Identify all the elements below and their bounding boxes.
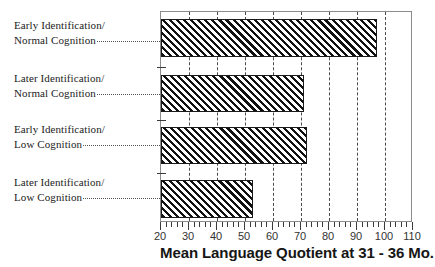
x-axis-tick-label: 100 <box>375 230 393 242</box>
x-axis-minor-tick <box>311 222 312 227</box>
category-label-line1: Later Identification/ <box>14 71 160 86</box>
x-axis-minor-tick <box>171 222 172 227</box>
dotted-leader <box>83 198 160 199</box>
bar <box>161 180 253 218</box>
x-axis-title: Mean Language Quotient at 31 - 36 Mo. <box>160 244 435 261</box>
dotted-leader <box>97 41 160 42</box>
x-axis-minor-tick <box>222 222 223 227</box>
category-label-line1: Later Identification/ <box>14 175 160 190</box>
x-axis-tick-label: 70 <box>294 230 306 242</box>
x-axis-minor-tick <box>406 222 407 227</box>
x-axis-tick-label: 80 <box>322 230 334 242</box>
category-label-line1: Early Identification/ <box>14 18 160 33</box>
x-axis-minor-tick <box>250 222 251 227</box>
x-axis-major-tick <box>272 222 273 230</box>
y-axis-tick <box>157 120 166 121</box>
x-axis-minor-tick <box>334 222 335 227</box>
x-axis-major-tick <box>300 222 301 230</box>
x-axis-tick-label: 60 <box>266 230 278 242</box>
x-axis-minor-tick <box>278 222 279 227</box>
x-axis-major-tick <box>244 222 245 230</box>
x-axis-minor-tick <box>401 222 402 227</box>
x-axis-tick-label: 110 <box>403 230 421 242</box>
x-axis-minor-tick <box>395 222 396 227</box>
x-axis-minor-tick <box>177 222 178 227</box>
y-axis-tick <box>157 67 166 68</box>
category-label-line2: Normal Cognition <box>14 33 160 48</box>
x-axis-minor-tick <box>362 222 363 227</box>
x-axis-minor-tick <box>350 222 351 227</box>
x-axis-minor-tick <box>283 222 284 227</box>
x-axis-minor-tick <box>210 222 211 227</box>
x-axis-minor-tick <box>166 222 167 227</box>
x-axis-major-tick <box>216 222 217 230</box>
x-axis-minor-tick <box>390 222 391 227</box>
category-label-line2-text: Low Cognition <box>14 190 82 205</box>
x-axis-minor-tick <box>339 222 340 227</box>
x-axis-minor-tick <box>294 222 295 227</box>
x-axis <box>160 222 412 230</box>
x-axis-major-tick <box>328 222 329 230</box>
category-label-line2-text: Low Cognition <box>14 137 82 152</box>
category-label-line1: Early Identification/ <box>14 122 160 137</box>
x-axis-minor-tick <box>233 222 234 227</box>
category-label-line2-text: Normal Cognition <box>14 33 96 48</box>
x-axis-tick-label: 40 <box>210 230 222 242</box>
category-label-line2: Low Cognition <box>14 137 160 152</box>
x-axis-tick-label: 30 <box>182 230 194 242</box>
category-label-column: Early Identification/ Normal Cognition L… <box>0 0 160 222</box>
dotted-leader <box>97 94 160 95</box>
bar <box>161 19 377 57</box>
x-axis-tick-label: 50 <box>238 230 250 242</box>
category-label: Later Identification/ Normal Cognition <box>14 71 160 101</box>
x-axis-minor-tick <box>345 222 346 227</box>
x-axis-minor-tick <box>378 222 379 227</box>
x-axis-minor-tick <box>367 222 368 227</box>
x-axis-minor-tick <box>261 222 262 227</box>
category-label-line2: Low Cognition <box>14 190 160 205</box>
x-axis-major-tick <box>160 222 161 230</box>
category-label: Early Identification/ Low Cognition <box>14 122 160 152</box>
x-axis-minor-tick <box>182 222 183 227</box>
x-axis-minor-tick <box>317 222 318 227</box>
x-axis-tick-label: 20 <box>154 230 166 242</box>
x-axis-minor-tick <box>194 222 195 227</box>
x-axis-minor-tick <box>266 222 267 227</box>
x-axis-minor-tick <box>227 222 228 227</box>
x-axis-minor-tick <box>255 222 256 227</box>
y-axis-tick <box>157 173 166 174</box>
gridline <box>385 12 386 221</box>
x-axis-minor-tick <box>373 222 374 227</box>
x-axis-minor-tick <box>289 222 290 227</box>
x-axis-minor-tick <box>199 222 200 227</box>
x-axis-tick-labels: 2030405060708090100110 <box>0 230 435 245</box>
dotted-leader <box>83 145 160 146</box>
bar-chart: Early Identification/ Normal Cognition L… <box>0 0 435 267</box>
x-axis-minor-tick <box>238 222 239 227</box>
x-axis-major-tick <box>412 222 413 230</box>
x-axis-minor-tick <box>306 222 307 227</box>
bar <box>161 75 304 112</box>
x-axis-major-tick <box>188 222 189 230</box>
category-label-line2: Normal Cognition <box>14 86 160 101</box>
x-axis-minor-tick <box>205 222 206 227</box>
category-label: Early Identification/ Normal Cognition <box>14 18 160 48</box>
x-axis-tick-label: 90 <box>350 230 362 242</box>
x-axis-major-tick <box>384 222 385 230</box>
plot-area <box>160 11 412 222</box>
plot-inner <box>161 12 411 221</box>
bar <box>161 127 307 164</box>
category-label-line2-text: Normal Cognition <box>14 86 96 101</box>
x-axis-major-tick <box>356 222 357 230</box>
x-axis-minor-tick <box>322 222 323 227</box>
category-label: Later Identification/ Low Cognition <box>14 175 160 205</box>
